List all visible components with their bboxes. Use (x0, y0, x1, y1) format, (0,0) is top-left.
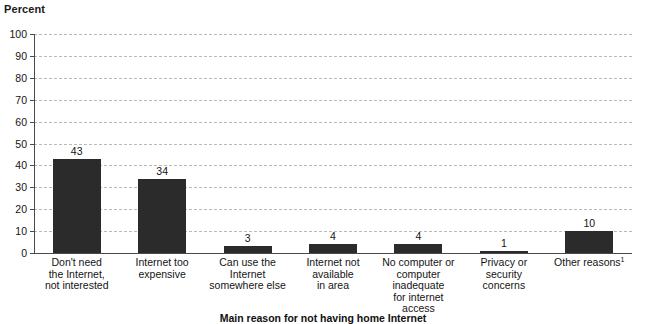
y-axis-tick-label: 50 (0, 138, 27, 150)
gridline (34, 187, 632, 188)
bar-value-label: 43 (47, 145, 107, 157)
x-axis-title: Main reason for not having home Internet (0, 312, 646, 324)
bar-value-label: 34 (132, 165, 192, 177)
x-axis-category-label: Other reasons1 (547, 257, 632, 269)
y-axis-tick (30, 144, 35, 145)
bar (309, 244, 357, 253)
y-axis-tick-label: 40 (0, 159, 27, 171)
x-axis-category-label: Privacy orsecurityconcerns (461, 257, 546, 292)
bar (224, 246, 272, 253)
gridline (34, 144, 632, 145)
bar (53, 159, 101, 253)
y-axis-tick-label: 60 (0, 116, 27, 128)
bar (394, 244, 442, 253)
gridline (34, 122, 632, 123)
y-axis-tick (30, 209, 35, 210)
bar-value-label: 1 (474, 237, 534, 249)
bar (565, 231, 613, 253)
bar-value-label: 4 (388, 230, 448, 242)
x-axis-category-label: Don't needthe Internet,not interested (34, 257, 119, 292)
y-axis-tick (30, 165, 35, 166)
bar (480, 251, 528, 253)
gridline (34, 165, 632, 166)
bar-value-label: 4 (303, 230, 363, 242)
bar-value-label: 3 (218, 232, 278, 244)
x-axis-category-label: No computer orcomputer inadequatefor int… (376, 257, 461, 315)
y-axis-tick (30, 253, 35, 254)
x-axis-category-label: Internet notavailablein area (290, 257, 375, 292)
y-axis-tick-label: 10 (0, 225, 27, 237)
y-axis-tick (30, 122, 35, 123)
x-axis-category-label: Can use theInternetsomewhere else (205, 257, 290, 292)
y-axis-tick-label: 0 (0, 247, 27, 259)
gridline (34, 253, 632, 254)
y-axis-tick (30, 100, 35, 101)
bar (138, 179, 186, 253)
y-axis-tick (30, 231, 35, 232)
gridline (34, 56, 632, 57)
y-axis-tick-label: 30 (0, 181, 27, 193)
y-axis-tick (30, 34, 35, 35)
plot-area: 4334344110 (34, 34, 632, 253)
gridline (34, 78, 632, 79)
gridline (34, 100, 632, 101)
y-axis-tick-label: 100 (0, 28, 27, 40)
y-axis-tick-label: 90 (0, 50, 27, 62)
y-axis-tick (30, 187, 35, 188)
y-axis-tick-label: 20 (0, 203, 27, 215)
gridline (34, 34, 632, 35)
y-axis-tick (30, 78, 35, 79)
bar-value-label: 10 (559, 217, 619, 229)
y-axis-tick-label: 70 (0, 94, 27, 106)
y-axis-tick (30, 56, 35, 57)
y-axis-tick-label: 80 (0, 72, 27, 84)
x-axis-category-label: Internet tooexpensive (119, 257, 204, 280)
y-axis-unit-label: Percent (4, 3, 45, 15)
gridline (34, 209, 632, 210)
